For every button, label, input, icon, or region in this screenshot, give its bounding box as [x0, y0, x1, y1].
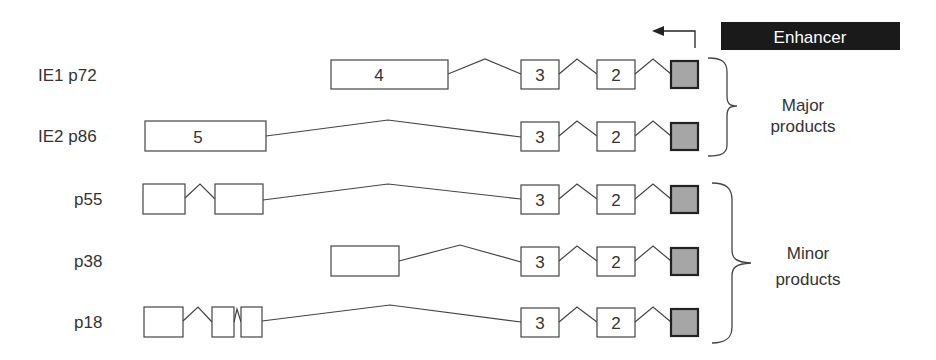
svg-text:3: 3 [535, 128, 544, 147]
transcript-row-p55: p55 3 2 [74, 184, 698, 214]
exon-1 [671, 61, 698, 88]
svg-text:2: 2 [611, 253, 620, 272]
transcript-row-ie1-p72: IE1 p72 4 3 2 [38, 59, 698, 89]
exon-4 [331, 60, 448, 89]
svg-text:2: 2 [611, 66, 620, 85]
major-products-brace: Major products [708, 58, 836, 156]
transcription-arrow-icon [652, 26, 695, 48]
svg-text:5: 5 [193, 128, 202, 147]
svg-text:2: 2 [611, 128, 620, 147]
transcript-label: p55 [74, 190, 102, 209]
svg-text:2: 2 [611, 314, 620, 333]
exon-1 [671, 309, 698, 336]
minor-products-brace: Minor products [712, 183, 841, 343]
exon-1 [671, 123, 698, 150]
svg-text:3: 3 [535, 314, 544, 333]
exon-b [212, 307, 234, 337]
transcript-label: IE2 p86 [38, 127, 97, 146]
transcript-row-ie2-p86: IE2 p86 5 3 2 [38, 120, 698, 151]
enhancer-label: Enhancer [774, 28, 847, 47]
svg-text:3: 3 [535, 191, 544, 210]
exon-1 [671, 186, 698, 213]
group-label-minor-line2: products [775, 270, 840, 289]
exon-a [331, 246, 399, 276]
exon-1 [671, 248, 698, 275]
svg-text:4: 4 [374, 66, 383, 85]
transcript-row-p38: p38 3 2 [74, 245, 698, 276]
gene-diagram: Enhancer IE1 p72 4 3 2 IE2 p86 5 3 2 p55 [0, 0, 936, 360]
exon-a [144, 307, 183, 337]
enhancer-box: Enhancer [721, 22, 900, 50]
group-label-major-line2: products [770, 117, 835, 136]
group-label-minor-line1: Minor [787, 244, 830, 263]
transcript-label: p18 [74, 313, 102, 332]
svg-text:3: 3 [535, 66, 544, 85]
svg-text:3: 3 [535, 253, 544, 272]
svg-text:2: 2 [611, 191, 620, 210]
transcript-label: p38 [74, 252, 102, 271]
exon-b [215, 184, 263, 214]
transcript-label: IE1 p72 [38, 66, 97, 85]
exon-5 [145, 121, 266, 151]
group-label-major-line1: Major [782, 96, 825, 115]
transcript-row-p18: p18 3 2 [74, 305, 698, 337]
exon-c [241, 307, 262, 337]
exon-a [143, 184, 185, 214]
